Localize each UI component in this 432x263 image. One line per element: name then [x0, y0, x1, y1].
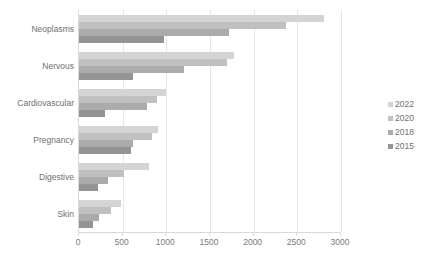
y-axis-label: Cardiovascular	[2, 98, 74, 108]
x-axis-tick-label: 2000	[233, 236, 273, 248]
bar	[79, 207, 111, 214]
bar	[79, 29, 229, 36]
legend-item[interactable]: 2015	[388, 139, 432, 153]
bar-group	[79, 163, 341, 191]
legend-swatch-icon	[388, 116, 393, 121]
y-axis-label: Skin	[2, 209, 74, 219]
bar-chart: NeoplasmsNervousCardiovascularPregnancyD…	[0, 0, 432, 263]
bar	[79, 133, 152, 140]
plot-area	[78, 10, 341, 232]
x-axis-tick	[78, 232, 79, 236]
x-axis-tick	[165, 232, 166, 236]
chart-legend: 2022202020182015	[388, 97, 432, 153]
legend-item[interactable]: 2022	[388, 97, 432, 111]
bar	[79, 214, 99, 221]
x-axis-tick-labels: 050010001500200025003000	[0, 236, 432, 250]
legend-swatch-icon	[388, 144, 393, 149]
bar	[79, 15, 324, 22]
y-axis-label: Neoplasms	[2, 24, 74, 34]
x-axis-tick-label: 3000	[320, 236, 360, 248]
x-axis-tick-label: 500	[102, 236, 142, 248]
x-axis-tick-label: 0	[58, 236, 98, 248]
legend-label: 2022	[395, 99, 414, 109]
bar	[79, 200, 121, 207]
x-axis-tick	[209, 232, 210, 236]
bar	[79, 73, 133, 80]
legend-label: 2018	[395, 127, 414, 137]
bar	[79, 36, 164, 43]
legend-label: 2015	[395, 141, 414, 151]
bar-group	[79, 89, 341, 117]
bar	[79, 147, 131, 154]
x-axis-tick	[296, 232, 297, 236]
legend-swatch-icon	[388, 102, 393, 107]
y-axis-label: Pregnancy	[2, 135, 74, 145]
bar	[79, 221, 93, 228]
legend-swatch-icon	[388, 130, 393, 135]
bar	[79, 96, 157, 103]
bar-group	[79, 200, 341, 228]
bar	[79, 52, 234, 59]
bar	[79, 59, 227, 66]
bar	[79, 66, 184, 73]
x-axis-tick-label: 1500	[189, 236, 229, 248]
bar	[79, 89, 166, 96]
bar	[79, 126, 158, 133]
bar-group	[79, 126, 341, 154]
bar	[79, 177, 108, 184]
legend-label: 2020	[395, 113, 414, 123]
y-axis-labels: NeoplasmsNervousCardiovascularPregnancyD…	[0, 0, 74, 263]
bar	[79, 140, 133, 147]
bar	[79, 184, 98, 191]
x-axis-tick	[122, 232, 123, 236]
legend-item[interactable]: 2018	[388, 125, 432, 139]
x-axis-tick-label: 1000	[145, 236, 185, 248]
x-axis-tick	[340, 232, 341, 236]
y-axis-label: Digestive	[2, 172, 74, 182]
bar-group	[79, 52, 341, 80]
x-axis-tick-label: 2500	[276, 236, 316, 248]
bar	[79, 163, 149, 170]
bar	[79, 103, 147, 110]
x-axis-tick	[253, 232, 254, 236]
bar	[79, 22, 286, 29]
bar-group	[79, 15, 341, 43]
y-axis-label: Nervous	[2, 61, 74, 71]
bar	[79, 110, 105, 117]
legend-item[interactable]: 2020	[388, 111, 432, 125]
bar	[79, 170, 124, 177]
gridline	[341, 10, 342, 232]
